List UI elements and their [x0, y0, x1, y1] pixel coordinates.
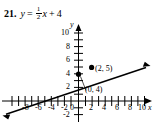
y-axis-label: y [70, 20, 74, 29]
x-tick-label-4: 4 [102, 103, 106, 112]
equation-lhs: y [21, 8, 25, 19]
x-tick-label-6: 6 [115, 103, 119, 112]
problem-number: 21. [4, 8, 17, 19]
y-tick-label-2: 2 [66, 82, 70, 91]
line-arrowhead-right [143, 62, 151, 67]
y-tick-label-4: 4 [66, 69, 70, 78]
x-tick-label-neg6: -6 [35, 103, 42, 112]
line-arrowhead-left [3, 115, 11, 120]
data-point-y-intercept [76, 72, 81, 77]
point-label-2-5: (2, 5) [95, 64, 112, 73]
y-axis-arrowhead [76, 24, 82, 31]
equation-plus-sign: + [49, 8, 55, 19]
exercise-figure: 21. y = 1 2 x + 4 [0, 0, 155, 125]
x-tick-label-neg4: -4 [48, 103, 55, 112]
point-label-0-4: (0, 4) [85, 85, 102, 94]
coordinate-plane: y x 10 8 6 4 2 -2 0 -8 -6 -4 -2 2 4 6 8 … [0, 18, 155, 125]
x-axis-label: x [148, 103, 152, 112]
y-tick-label-6: 6 [66, 55, 70, 64]
x-tick-label-10: 10 [138, 103, 146, 112]
data-point-2-5 [89, 65, 94, 70]
y-tick-label-8: 8 [66, 42, 70, 51]
x-tick-label-2: 2 [89, 103, 93, 112]
equation-equals-sign: = [27, 8, 33, 19]
equation-variable: x [43, 8, 47, 19]
fraction-numerator: 1 [36, 6, 42, 13]
x-tick-label-neg8: -8 [22, 103, 29, 112]
x-tick-label-neg2: -2 [61, 103, 68, 112]
origin-label: 0 [70, 103, 74, 112]
y-tick-label-10: 10 [61, 28, 69, 37]
x-tick-label-8: 8 [128, 103, 132, 112]
equation-constant: 4 [57, 8, 62, 19]
